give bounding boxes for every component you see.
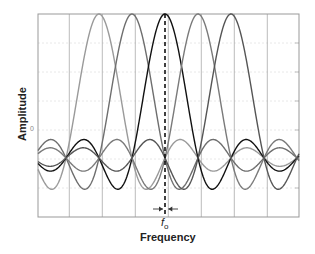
right-arrow-head <box>168 207 172 212</box>
f0-annotation: fo <box>161 216 169 231</box>
left-arrow-head <box>159 207 163 212</box>
x-axis-label: Frequency <box>140 231 196 243</box>
y-tick-zero: 0 <box>30 125 34 132</box>
chart-canvas <box>0 0 315 254</box>
y-axis-label: Amplitude <box>16 101 28 141</box>
